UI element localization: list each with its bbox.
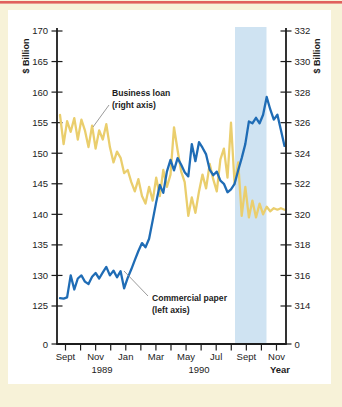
left-axis-zero-label: 0: [43, 339, 48, 350]
left-axis-tick-label: 140: [32, 209, 48, 220]
left-axis-tick-label: 155: [32, 117, 48, 128]
right-axis-tick-label: 324: [295, 148, 311, 159]
right-axis-tick-label: 328: [295, 87, 311, 98]
x-axis-month-label: Nov: [268, 351, 285, 362]
top-rule: [0, 1, 342, 4]
right-axis-tick-label: 320: [295, 209, 311, 220]
left-axis-tick-label: 130: [32, 270, 48, 281]
x-axis-month-label: Sept: [237, 351, 257, 362]
business-loan-annotation-line2: (right axis): [112, 100, 156, 110]
right-axis-tick-label: 326: [295, 117, 311, 128]
right-axis-tick-label: 316: [295, 270, 311, 281]
right-axis-tick-label: 314: [295, 300, 311, 311]
x-axis-month-label: Jul: [210, 351, 222, 362]
right-axis-tick-label: 322: [295, 178, 311, 189]
left-axis-tick-label: 160: [32, 87, 48, 98]
left-axis-tick-label: 170: [32, 25, 48, 36]
left-axis-tick-label: 135: [32, 239, 48, 250]
x-axis-month-label: Jan: [118, 351, 133, 362]
right-axis-title: $ Billion: [312, 38, 322, 73]
left-axis-tick-label: 125: [32, 300, 48, 311]
left-axis-tick-label: 150: [32, 148, 48, 159]
business-loan-annotation-line1: Business loan: [112, 88, 170, 98]
x-axis-month-label: May: [177, 351, 195, 362]
loans-vs-commercial-paper-chart: 1701651601551501451401351301253323303283…: [0, 0, 342, 407]
x-axis-month-label: Nov: [87, 351, 104, 362]
right-axis-tick-label: 330: [295, 56, 311, 67]
x-axis-month-label: Mar: [148, 351, 164, 362]
right-axis-zero-label: 0: [295, 339, 300, 350]
right-axis-tick-label: 318: [295, 239, 311, 250]
chart-figure: 1701651601551501451401351301253323303283…: [0, 0, 342, 407]
x-axis-month-label: Sept: [56, 351, 76, 362]
left-axis-tick-label: 145: [32, 178, 48, 189]
right-axis-tick-label: 332: [295, 25, 311, 36]
commercial-paper-annotation-line2: (left axis): [152, 305, 190, 315]
left-axis-tick-label: 165: [32, 56, 48, 67]
x-axis-caption-year: Year: [270, 364, 290, 375]
year-label-1990: 1990: [188, 364, 209, 375]
year-label-1989: 1989: [91, 364, 112, 375]
left-axis-title: $ Billion: [21, 38, 31, 73]
commercial-paper-annotation-line1: Commercial paper: [152, 293, 228, 303]
